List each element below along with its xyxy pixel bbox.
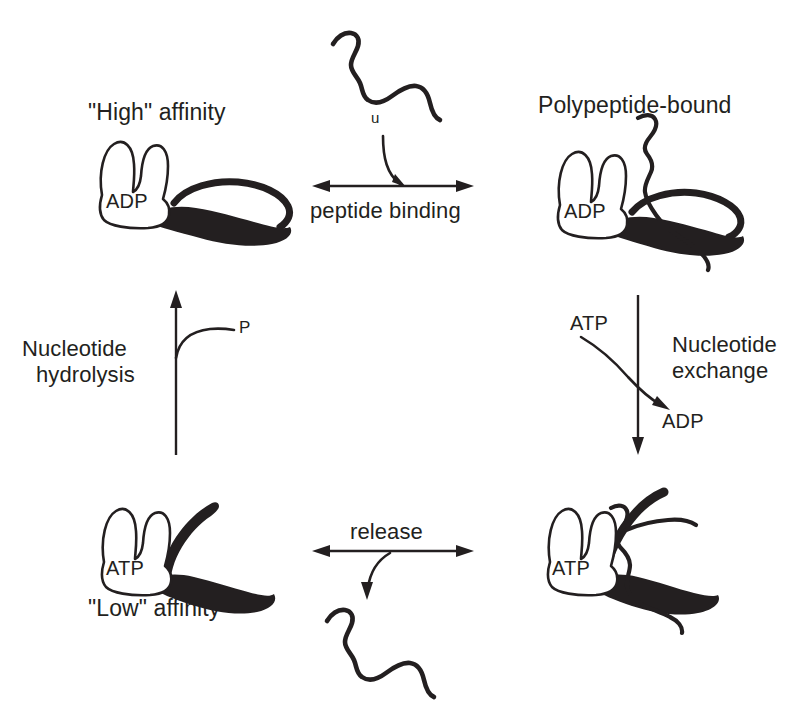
nucleotide-label-adp-top-right: ADP	[564, 200, 606, 224]
peptide-binding-arrowhead-left	[312, 180, 330, 192]
nucleotide-pocket-top-right	[558, 152, 627, 238]
release-arrowhead-right	[456, 545, 474, 557]
reaction-label-peptide-binding: peptide binding	[310, 198, 461, 224]
nucleotide-pocket-bottom-right	[548, 509, 617, 595]
nucleotide-label-atp-bottom-right: ATP	[552, 557, 590, 581]
bound-polypeptide-chain-upper-bottom-right	[626, 520, 696, 530]
atp-adp-exchange-arrowhead	[652, 396, 670, 410]
state-title-polypeptide-bound: Polypeptide-bound	[538, 92, 732, 119]
state-title-low-affinity: "Low" affinity	[88, 595, 220, 622]
hydrolysis-arrowhead	[170, 290, 182, 308]
release-curve-arrowhead	[361, 582, 373, 600]
nucleotide-pocket-top-left	[100, 142, 169, 228]
reaction-label-nucleotide-hydrolysis-line2: hydrolysis	[36, 362, 135, 388]
reaction-label-nucleotide-exchange-line1: Nucleotide	[672, 332, 777, 358]
lid-closed-body-top-left	[150, 207, 291, 246]
nucleotide-pocket-bottom-left	[102, 509, 171, 595]
reaction-label-release: release	[350, 519, 423, 545]
free-peptide-squiggle-bottom	[327, 610, 434, 697]
phosphate-label-p: P	[239, 318, 250, 338]
reaction-label-nucleotide-exchange-line2: exchange	[672, 358, 768, 384]
release-arrowhead-left	[312, 545, 330, 557]
state-title-high-affinity: "High" affinity	[88, 99, 226, 126]
peptide-substrate-label-u: u	[371, 109, 379, 127]
peptide-binding-arrowhead-right	[456, 180, 474, 192]
exchange-arrowhead	[632, 437, 644, 455]
free-peptide-squiggle-top	[333, 33, 440, 120]
nucleotide-label-adp-top-left: ADP	[106, 190, 148, 214]
phosphate-release-curve	[176, 329, 234, 358]
peptide-binding-curve	[383, 136, 400, 184]
exchange-input-label-atp: ATP	[570, 312, 608, 336]
exchange-output-label-adp: ADP	[662, 410, 704, 434]
reaction-label-nucleotide-hydrolysis-line1: Nucleotide	[22, 336, 127, 362]
atp-adp-exchange-curve	[581, 337, 661, 405]
nucleotide-label-atp-bottom-left: ATP	[106, 557, 144, 581]
chaperone-cycle-diagram: "High" affinity Polypeptide-bound "Low" …	[0, 0, 806, 720]
state-figure-polypeptide-bound	[558, 115, 744, 270]
